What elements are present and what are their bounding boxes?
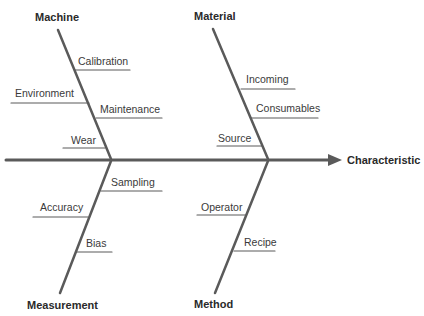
cause-sampling: Sampling — [111, 176, 155, 188]
cause-operator: Operator — [201, 201, 242, 213]
cause-wear: Wear — [71, 134, 96, 146]
method-bone — [215, 161, 268, 293]
spine-arrowhead — [328, 154, 342, 166]
category-method: Method — [194, 298, 233, 311]
cause-maintenance: Maintenance — [100, 103, 160, 115]
cause-incoming: Incoming — [246, 73, 289, 85]
cause-calibration: Calibration — [78, 55, 128, 67]
cause-environment: Environment — [15, 87, 74, 99]
cause-accuracy: Accuracy — [40, 201, 83, 213]
category-machine: Machine — [35, 11, 79, 24]
effect-label: Characteristic — [347, 154, 420, 167]
category-material: Material — [194, 10, 236, 23]
category-measurement: Measurement — [27, 299, 98, 312]
cause-recipe: Recipe — [244, 236, 277, 248]
measurement-bone — [60, 161, 111, 293]
cause-consumables: Consumables — [256, 102, 320, 114]
cause-source: Source — [218, 132, 251, 144]
cause-bias: Bias — [86, 237, 106, 249]
